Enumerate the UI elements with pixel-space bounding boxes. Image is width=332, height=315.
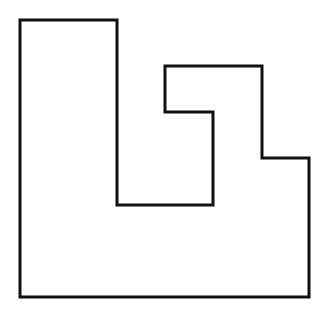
diagram-canvas bbox=[0, 0, 332, 315]
